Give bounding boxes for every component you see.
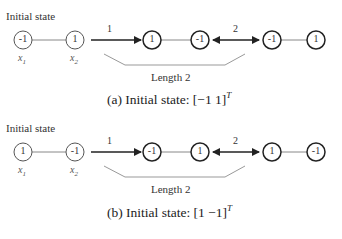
- step1-node-b-value: 1: [194, 145, 206, 156]
- caption-b: (b) Initial state: [1 −1]T: [107, 203, 232, 221]
- node-x2-value: 1: [69, 33, 81, 44]
- step-1-label: 1: [107, 135, 112, 146]
- initial-state-label: Initial state: [6, 122, 55, 134]
- node-x1-value: -1: [17, 33, 29, 44]
- step2-node-a-value: 1: [266, 145, 278, 156]
- var-x2: x2: [70, 52, 78, 66]
- panel-a: Initial state -1 1 x1 x2 1 1 -1 2 -1 1 L…: [0, 0, 342, 115]
- var-x2: x2: [70, 164, 78, 178]
- step1-node-b-value: -1: [194, 33, 206, 44]
- brace-length-label: Length 2: [151, 183, 190, 195]
- step-1-label: 1: [107, 23, 112, 34]
- step1-node-a-value: -1: [146, 145, 158, 156]
- initial-state-label: Initial state: [6, 10, 55, 22]
- panel-b: Initial state 1 -1 x1 x2 1 -1 1 2 1 -1 L…: [0, 112, 342, 239]
- node-x1-value: 1: [17, 145, 29, 156]
- step2-node-a-value: -1: [266, 33, 278, 44]
- caption-a: (a) Initial state: [−1 1]T: [107, 90, 231, 108]
- step2-node-b-value: 1: [310, 33, 322, 44]
- step-2-label: 2: [233, 23, 238, 34]
- step-2-label: 2: [233, 135, 238, 146]
- step2-node-b-value: -1: [310, 145, 322, 156]
- brace-length-label: Length 2: [151, 71, 190, 83]
- length-brace: [104, 166, 245, 177]
- step1-node-a-value: 1: [146, 33, 158, 44]
- length-brace: [104, 54, 245, 65]
- node-x2-value: -1: [69, 145, 81, 156]
- var-x1: x1: [18, 164, 26, 178]
- var-x1: x1: [18, 52, 26, 66]
